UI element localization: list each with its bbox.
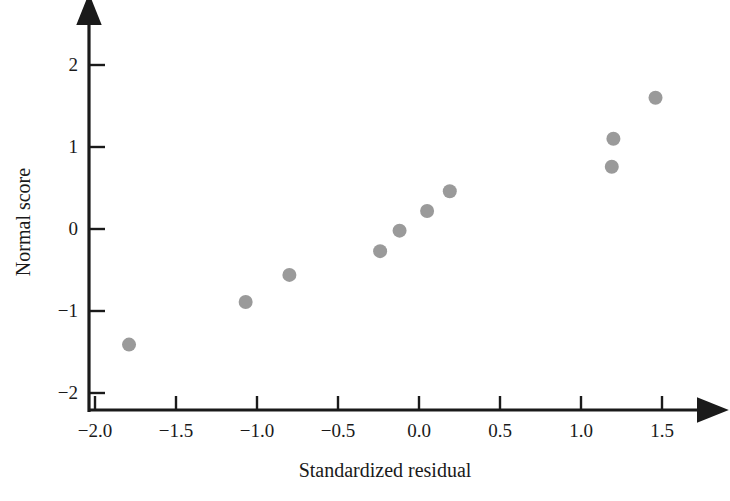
x-tick-label: 1.0 bbox=[569, 420, 593, 442]
x-tick-label: 0.0 bbox=[407, 420, 431, 442]
data-point bbox=[122, 338, 136, 352]
data-point bbox=[443, 184, 457, 198]
x-tick-label: −1.0 bbox=[240, 420, 274, 442]
y-tick-label: 1 bbox=[38, 136, 78, 158]
data-point bbox=[373, 244, 387, 258]
y-axis-ticks bbox=[89, 65, 105, 393]
data-point bbox=[282, 268, 296, 282]
data-point bbox=[393, 224, 407, 238]
y-tick-label: 2 bbox=[38, 54, 78, 76]
x-tick-label: −2.0 bbox=[78, 420, 112, 442]
x-tick-label: 1.5 bbox=[650, 420, 674, 442]
x-tick-label: 0.5 bbox=[488, 420, 512, 442]
x-tick-label: −0.5 bbox=[321, 420, 355, 442]
y-tick-label: −2 bbox=[38, 382, 78, 404]
y-tick-label: −1 bbox=[38, 300, 78, 322]
x-axis-ticks bbox=[95, 396, 662, 410]
data-point bbox=[606, 132, 620, 146]
data-point bbox=[649, 91, 663, 105]
axes bbox=[88, 22, 700, 412]
y-axis-title: Normal score bbox=[12, 168, 35, 276]
data-point bbox=[605, 160, 619, 174]
y-tick-label: 0 bbox=[38, 218, 78, 240]
x-axis-title: Standardized residual bbox=[299, 459, 472, 482]
x-tick-label: −1.5 bbox=[159, 420, 193, 442]
data-point bbox=[420, 204, 434, 218]
scatter-points bbox=[122, 91, 663, 352]
normal-probability-plot-figure: −2.0−1.5−1.0−0.50.00.51.01.5 −2−1012 Sta… bbox=[0, 0, 730, 501]
data-point bbox=[239, 295, 253, 309]
